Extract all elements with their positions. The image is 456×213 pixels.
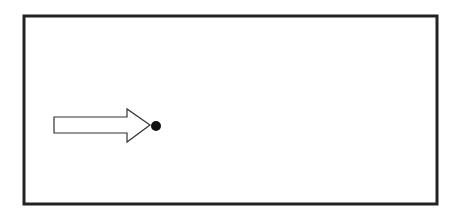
target-dot-icon: [151, 121, 161, 131]
frame-rectangle: [24, 16, 437, 204]
right-arrow-icon: [54, 109, 150, 142]
diagram-canvas: [0, 0, 456, 213]
